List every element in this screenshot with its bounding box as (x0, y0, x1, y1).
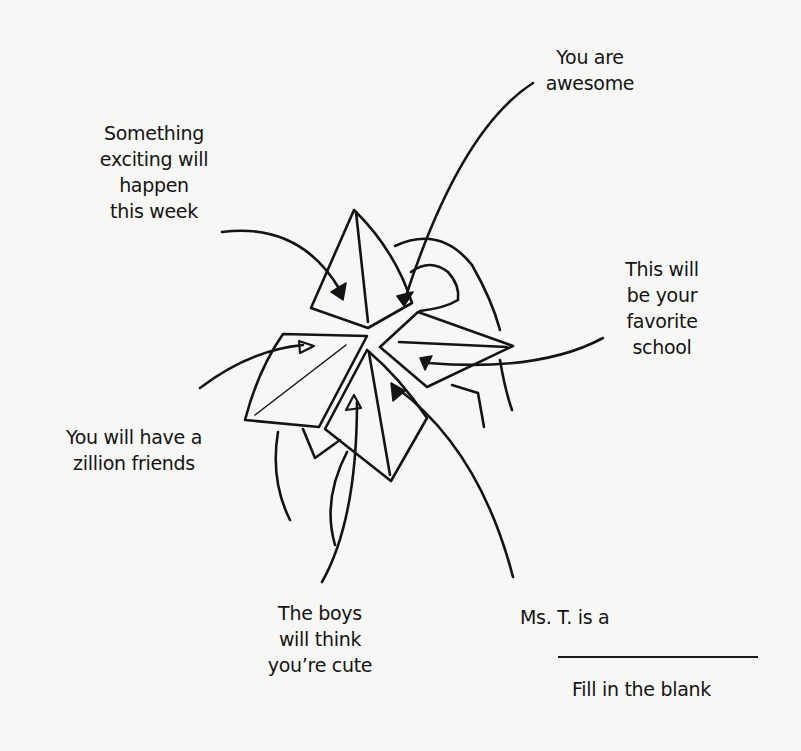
label-you-are-awesome: You are awesome (540, 44, 640, 96)
label-something-exciting: Something exciting will happen this week (84, 120, 224, 224)
label-line: will think (250, 626, 390, 652)
label-zillion-friends: You will have a zillion friends (44, 424, 224, 476)
label-line: This will (612, 256, 712, 282)
arrow-you-are-awesome (406, 83, 533, 296)
label-line: Ms. T. is a (520, 604, 660, 630)
label-line: The boys (250, 600, 390, 626)
label-favorite-school: This will be your favorite school (612, 256, 712, 360)
label-line: school (612, 334, 712, 360)
label-line: Something (84, 120, 224, 146)
arrow-favorite-school (428, 338, 603, 365)
arrowhead-icon (346, 395, 361, 410)
left-flap (245, 334, 367, 427)
stroke-left-curve (276, 432, 290, 520)
label-ms-t-prompt: Ms. T. is a (520, 604, 660, 630)
label-line: awesome (540, 70, 640, 96)
right-flap (380, 312, 513, 387)
label-line: You will have a (44, 424, 224, 450)
label-line: you’re cute (250, 652, 390, 678)
label-line: zillion friends (44, 450, 224, 476)
arrowhead-icon (299, 341, 314, 353)
stroke-mid-curve (331, 452, 347, 545)
arrow-zillion-friends (200, 345, 303, 388)
label-line: Fill in the blank (572, 676, 752, 702)
fill-in-blank-line (558, 656, 758, 658)
arrow-ms-t (397, 388, 513, 577)
label-line: happen (84, 172, 224, 198)
label-line: You are (540, 44, 640, 70)
label-line: this week (84, 198, 224, 224)
label-line: favorite (612, 308, 712, 334)
fortune-teller-drawing (0, 0, 801, 751)
label-boys-cute: The boys will think you’re cute (250, 600, 390, 678)
arrow-boys-cute (322, 402, 357, 582)
label-line: exciting will (84, 146, 224, 172)
label-fill-in-blank: Fill in the blank (572, 676, 752, 702)
label-line: be your (612, 282, 712, 308)
